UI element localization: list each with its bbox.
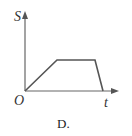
caption: D. — [57, 117, 70, 130]
x-axis-label: t — [104, 96, 108, 110]
series-line — [25, 60, 103, 91]
y-axis-arrow-icon — [22, 11, 28, 19]
y-axis-label: S — [14, 10, 21, 24]
x-axis-arrow-icon — [111, 88, 119, 94]
origin-label: O — [14, 94, 24, 108]
